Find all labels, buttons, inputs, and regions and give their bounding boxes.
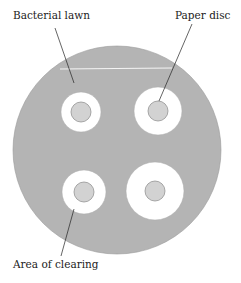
label-area-of-clearing: Area of clearing — [13, 258, 99, 270]
label-paper-disc: Paper disc — [175, 9, 231, 21]
disc-top-right — [134, 87, 182, 135]
disc-bottom-right — [126, 162, 184, 220]
disc-bottom-left — [62, 170, 106, 214]
label-bacterial-lawn: Bacterial lawn — [13, 9, 90, 21]
disc-top-left — [61, 92, 101, 132]
agar-plate — [13, 46, 221, 254]
diagram-canvas — [0, 0, 241, 283]
